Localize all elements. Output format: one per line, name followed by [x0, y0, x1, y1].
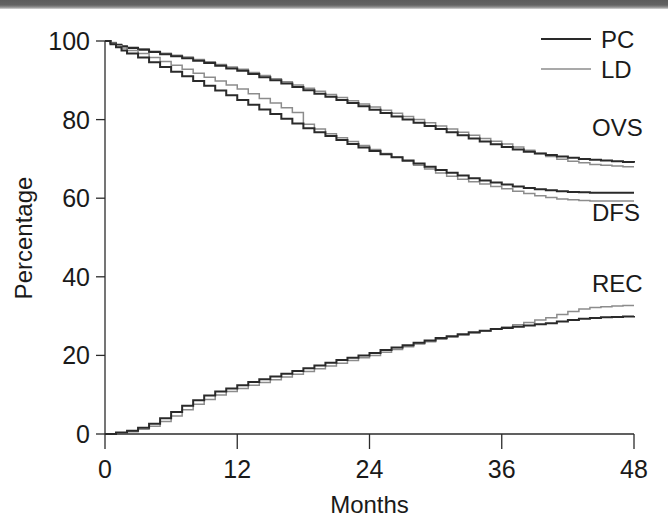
y-tick-label-60: 60 [62, 184, 90, 212]
x-tick-label-12: 12 [223, 455, 251, 483]
x-tick-label-36: 36 [488, 455, 516, 483]
x-tick-label-24: 24 [356, 455, 384, 483]
curve-annotation-rec: REC [592, 270, 643, 297]
y-axis-title: Percentage [10, 177, 37, 300]
x-tick-label-0: 0 [98, 455, 112, 483]
y-tick-label-100: 100 [48, 27, 90, 55]
y-tick-label-40: 40 [62, 263, 90, 291]
data-curves-group [105, 41, 634, 434]
y-tick-label-0: 0 [76, 420, 90, 448]
survival-curve-chart: 0 20 40 60 80 100 0 12 24 36 48 Months P… [0, 9, 668, 520]
curve-annotation-dfs: DFS [592, 199, 640, 226]
x-axis-ticks [105, 434, 634, 449]
curve-rec-ld [105, 305, 634, 434]
chart-figure: 0 20 40 60 80 100 0 12 24 36 48 Months P… [0, 9, 668, 520]
y-tick-label-20: 20 [62, 341, 90, 369]
curve-annotation-ovs: OVS [592, 114, 643, 141]
y-axis-ticks [96, 41, 105, 434]
chart-legend: PC LD [541, 26, 634, 83]
legend-label-ld: LD [601, 56, 632, 83]
curve-dfs-ld [105, 41, 634, 201]
curve-ovs-pc [105, 41, 634, 163]
curve-dfs-pc [105, 41, 634, 193]
curve-rec-pc [105, 316, 634, 434]
scan-artifact-band [0, 0, 668, 9]
legend-label-pc: PC [601, 26, 634, 53]
x-tick-label-48: 48 [620, 455, 648, 483]
y-tick-label-80: 80 [62, 106, 90, 134]
x-axis-title: Months [330, 491, 409, 518]
